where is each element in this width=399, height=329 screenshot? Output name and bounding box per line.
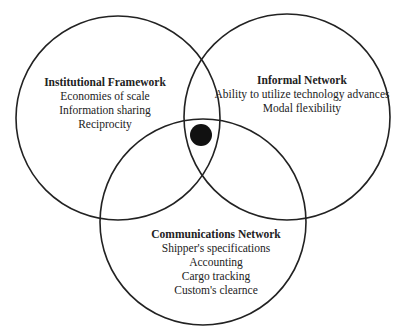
institutional-item: Information sharing — [44, 103, 166, 117]
informal-network-label: Informal Network Ability to utilize tech… — [214, 73, 389, 115]
institutional-framework-title: Institutional Framework — [44, 75, 166, 89]
communications-network-title: Communications Network — [151, 227, 280, 241]
communications-item: Custom's clearnce — [151, 283, 280, 297]
institutional-item: Reciprocity — [44, 117, 166, 131]
institutional-item: Economies of scale — [44, 89, 166, 103]
venn-diagram: Institutional Framework Economies of sca… — [0, 0, 399, 329]
informal-network-title: Informal Network — [214, 73, 389, 87]
communications-item: Shipper's specifications — [151, 241, 280, 255]
communications-network-label: Communications Network Shipper's specifi… — [151, 227, 280, 297]
center-intersection-dot — [190, 124, 212, 146]
circle-informal-network — [184, 14, 390, 220]
communications-item: Accounting — [151, 255, 280, 269]
institutional-framework-label: Institutional Framework Economies of sca… — [44, 75, 166, 131]
informal-item: Ability to utilize technology advances — [214, 87, 389, 101]
informal-item: Modal flexibility — [214, 101, 389, 115]
communications-item: Cargo tracking — [151, 269, 280, 283]
